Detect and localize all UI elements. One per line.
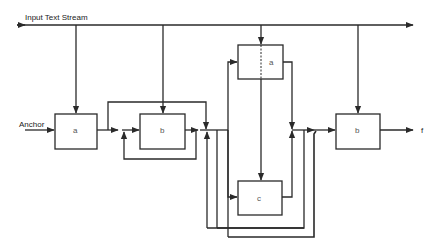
- box-a-second-label: a: [269, 58, 274, 67]
- output-label: f: [421, 126, 424, 135]
- stream-drop-lines: [76, 25, 358, 113]
- box-c-label: c: [257, 194, 261, 203]
- flow-diagram: Input Text Stream Anchor a b: [0, 0, 442, 249]
- anchor-label: Anchor: [19, 120, 45, 129]
- a2-c-merge-connectors: [282, 62, 335, 197]
- input-stream-label: Input Text Stream: [25, 13, 88, 22]
- b1-output-connector: [185, 130, 228, 237]
- box-a-second: [238, 45, 283, 79]
- box-b-first-label: b: [160, 126, 165, 135]
- box-b-second-label: b: [355, 126, 360, 135]
- box-a-first-label: a: [73, 126, 78, 135]
- a2-c-split-connectors: [228, 62, 261, 197]
